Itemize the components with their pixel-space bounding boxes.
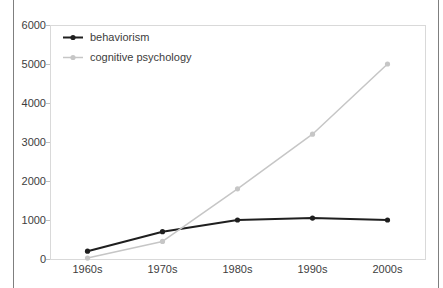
behaviorism-line-marker-icon: [62, 32, 84, 43]
x-tick-label: 1980s: [208, 263, 268, 275]
line-chart: 0100020003000400050006000 1960s1970s1980…: [0, 0, 443, 288]
y-tick-label: 6000: [0, 19, 46, 31]
data-point: [235, 186, 240, 191]
y-tick-label: 1000: [0, 214, 46, 226]
y-tick-label: 3000: [0, 136, 46, 148]
x-tick-label: 1990s: [283, 263, 343, 275]
cognitive-psychology-line-marker-icon: [62, 52, 84, 63]
y-tick-label: 2000: [0, 175, 46, 187]
data-point: [85, 255, 90, 260]
data-point: [85, 249, 90, 254]
legend-item-behaviorism: behaviorism: [62, 30, 192, 44]
data-point: [310, 132, 315, 137]
y-tick-label: 5000: [0, 58, 46, 70]
legend-label-behaviorism: behaviorism: [90, 31, 149, 43]
series-line-0: [88, 218, 388, 251]
legend-label-cognitive-psychology: cognitive psychology: [90, 51, 192, 63]
y-tick-label: 0: [0, 253, 46, 265]
legend: behaviorism cognitive psychology: [62, 30, 192, 70]
data-point: [160, 229, 165, 234]
x-tick-label: 1970s: [133, 263, 193, 275]
y-tick-label: 4000: [0, 97, 46, 109]
legend-item-cognitive-psychology: cognitive psychology: [62, 50, 192, 64]
data-point: [235, 217, 240, 222]
data-point: [385, 217, 390, 222]
series-line-1: [88, 64, 388, 258]
data-point: [385, 61, 390, 66]
x-tick-label: 2000s: [358, 263, 418, 275]
document-page: 0100020003000400050006000 1960s1970s1980…: [0, 0, 443, 288]
data-point: [310, 215, 315, 220]
data-point: [160, 239, 165, 244]
x-tick-label: 1960s: [58, 263, 118, 275]
